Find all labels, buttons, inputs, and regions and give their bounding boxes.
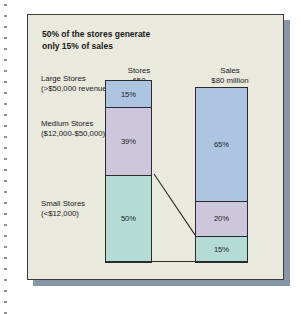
margin-dot	[4, 59, 7, 61]
margin-dot	[4, 301, 7, 303]
margin-dot	[4, 290, 7, 292]
connector-line	[154, 174, 195, 235]
margin-dot	[4, 114, 7, 116]
margin-dot	[4, 48, 7, 50]
margin-dot	[4, 169, 7, 171]
margin-dot	[4, 191, 7, 193]
margin-dot	[4, 103, 7, 105]
margin-dot	[4, 92, 7, 94]
margin-dot	[4, 4, 7, 6]
connector-line-group	[28, 15, 285, 281]
margin-dot	[4, 224, 7, 226]
page-margin-dots	[0, 0, 14, 313]
margin-dot	[4, 235, 7, 237]
margin-dot	[4, 37, 7, 39]
plot-area: 15% 39% 50% 65% 20% 15%	[28, 15, 285, 281]
margin-dot	[4, 158, 7, 160]
margin-dot	[4, 268, 7, 270]
margin-dot	[4, 125, 7, 127]
margin-dot	[4, 246, 7, 248]
margin-dot	[4, 257, 7, 259]
margin-dot	[4, 213, 7, 215]
margin-dot	[4, 147, 7, 149]
margin-dot	[4, 70, 7, 72]
margin-dot	[4, 81, 7, 83]
margin-dot	[4, 202, 7, 204]
margin-dot	[4, 15, 7, 17]
margin-dot	[4, 136, 7, 138]
margin-dot	[4, 26, 7, 28]
figure-panel: 50% of the stores generate only 15% of s…	[27, 14, 284, 280]
margin-dot	[4, 180, 7, 182]
margin-dot	[4, 279, 7, 281]
